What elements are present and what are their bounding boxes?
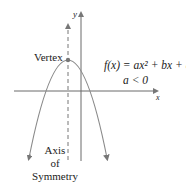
- axis-label-line1: Axis: [40, 144, 70, 157]
- y-axis-label: y: [73, 9, 77, 19]
- x-axis-label: x: [156, 93, 160, 102]
- axis-label-line3: Symmetry: [28, 170, 82, 183]
- axis-of-symmetry-label: Axis of Symmetry: [40, 144, 70, 183]
- vertex-label: Vertex: [34, 51, 63, 63]
- function-label: f(x) = ax² + bx + c,: [104, 59, 186, 71]
- vertex-point: [66, 58, 70, 62]
- condition-label: a < 0: [123, 74, 148, 86]
- axis-label-line2: of: [40, 157, 70, 170]
